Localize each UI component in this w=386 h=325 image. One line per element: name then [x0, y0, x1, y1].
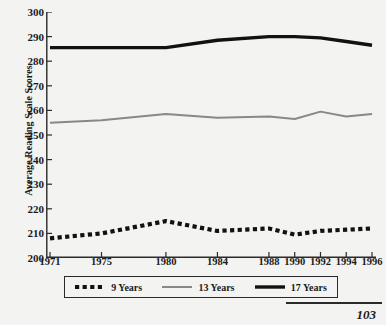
chart-figure: Average Reading Scale Scores 30029028027…	[0, 0, 386, 325]
x-tick-label: 1996	[362, 256, 383, 267]
legend-label: 9 Years	[111, 282, 142, 293]
line-series	[50, 221, 372, 238]
legend-item: 17 Years	[255, 282, 327, 293]
line-series	[50, 112, 372, 123]
x-tick-label: 1984	[207, 256, 228, 267]
page-number: 103	[286, 307, 382, 323]
y-tick-label: 250	[2, 129, 44, 141]
x-tick-label: 1990	[284, 256, 305, 267]
y-tick-label: 220	[2, 203, 44, 215]
legend-item: 13 Years	[162, 282, 234, 293]
x-axis-tick-labels: 197119751980198419881990199219941996	[46, 256, 376, 274]
y-tick-label: 240	[2, 154, 44, 166]
y-tick-label: 230	[2, 178, 44, 190]
chart-lines	[46, 12, 376, 258]
plot-area	[46, 12, 376, 258]
page-number-block: 103	[286, 302, 382, 324]
y-tick-label: 300	[2, 6, 44, 18]
y-tick-label: 210	[2, 227, 44, 239]
chart-legend: 9 Years13 Years17 Years	[64, 276, 338, 298]
y-tick-label: 290	[2, 31, 44, 43]
legend-swatch	[162, 282, 192, 292]
x-tick-label: 1971	[40, 256, 61, 267]
y-tick-label: 260	[2, 104, 44, 116]
y-tick-label: 200	[2, 252, 44, 264]
x-tick-label: 1992	[310, 256, 331, 267]
line-series	[50, 37, 372, 48]
legend-swatch	[255, 282, 285, 292]
x-tick-label: 1975	[91, 256, 112, 267]
legend-label: 17 Years	[291, 282, 327, 293]
x-tick-label: 1988	[258, 256, 279, 267]
x-tick-label: 1980	[155, 256, 176, 267]
page-rule-divider	[286, 302, 382, 305]
legend-label: 13 Years	[198, 282, 234, 293]
y-axis-tick-labels: 300290280270260250240230220210200	[0, 12, 44, 258]
x-tick-label: 1994	[336, 256, 357, 267]
y-tick-label: 270	[2, 80, 44, 92]
legend-swatch	[75, 282, 105, 292]
legend-item: 9 Years	[75, 282, 142, 293]
y-tick-label: 280	[2, 55, 44, 67]
